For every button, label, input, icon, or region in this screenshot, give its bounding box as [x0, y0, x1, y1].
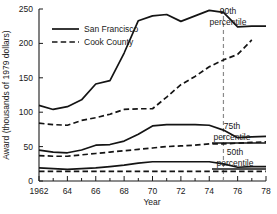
annotation-90th-line2: percentile [210, 17, 247, 27]
y-tick-label: 150 [19, 73, 33, 83]
x-tick-label: 70 [148, 186, 158, 196]
y-tick-label: 0 [28, 176, 33, 186]
annotation-75th-percentile: 75th percentile [214, 121, 251, 142]
legend-label-cook-county: Cook County [84, 37, 134, 47]
x-axis-group: 19626466687072747678 Year [30, 176, 271, 207]
x-tick-label: 68 [119, 186, 129, 196]
y-tick-label: 250 [19, 4, 33, 14]
x-axis-title: Year [143, 197, 160, 207]
annotation-75th-line1: 75th [224, 121, 241, 131]
x-tick-marks [39, 176, 266, 181]
annotation-90th-line1: 90th [220, 6, 237, 16]
y-tick-label: 100 [19, 107, 33, 117]
x-tick-labels: 19626466687072747678 [30, 186, 271, 196]
x-tick-label: 72 [176, 186, 186, 196]
y-axis-title: Award (thousands of 1979 dollars) [1, 30, 11, 159]
award-percentile-line-chart: 050100150200250 Award (thousands of 1979… [0, 0, 277, 214]
annotation-50th-percentile: 50th percentile [217, 147, 254, 168]
annotation-75th-line2: percentile [214, 132, 251, 142]
x-tick-label: 76 [233, 186, 243, 196]
y-tick-label: 50 [24, 142, 34, 152]
legend: San Francisco Cook County [52, 24, 139, 47]
annotation-50th-line2: percentile [217, 158, 254, 168]
annotation-50th-line1: 50th [227, 147, 244, 157]
x-tick-label: 74 [205, 186, 215, 196]
series-line-cook-county-90th [39, 40, 252, 125]
x-tick-label: 64 [63, 186, 73, 196]
y-tick-labels: 050100150200250 [19, 4, 33, 186]
y-axis-group: 050100150200250 Award (thousands of 1979… [1, 4, 43, 186]
x-tick-label: 78 [261, 186, 271, 196]
x-tick-label: 1962 [30, 186, 49, 196]
annotation-90th-percentile: 90th percentile [210, 6, 247, 27]
x-tick-label: 66 [91, 186, 101, 196]
legend-label-san-francisco: San Francisco [84, 24, 139, 34]
y-tick-label: 200 [19, 38, 33, 48]
chart-canvas: 050100150200250 Award (thousands of 1979… [0, 0, 277, 214]
